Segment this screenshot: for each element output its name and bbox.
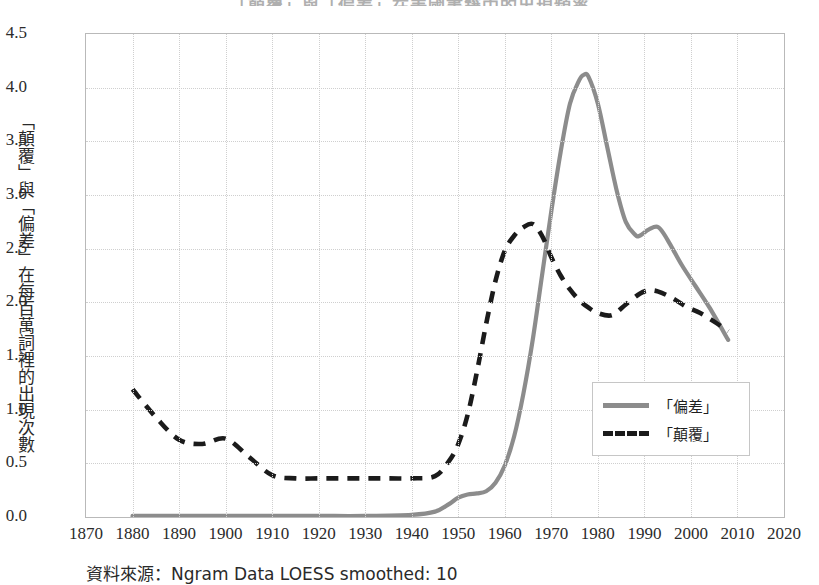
y-tick-label: 3.5 <box>0 130 27 150</box>
y-tick-label: 1.0 <box>0 399 27 419</box>
y-tick-label: 3.0 <box>0 184 27 204</box>
y-tick-label: 4.5 <box>0 23 27 43</box>
y-axis-title: 「顛覆」與「偏差」在每百萬詞裡的出現次數 <box>4 48 34 518</box>
source-caption: 資料來源：Ngram Data LOESS smoothed: 10 <box>86 560 458 585</box>
legend-item-subversion: 「顛覆」 <box>603 419 739 447</box>
chart-title: 「顛覆」與「偏差」在美國書籍中的出現頻率 <box>0 0 819 6</box>
y-tick-label: 4.0 <box>0 77 27 97</box>
legend-swatch-dashed-line <box>603 431 649 436</box>
y-tick-label: 0.0 <box>0 506 27 526</box>
y-tick-label: 1.5 <box>0 345 27 365</box>
legend-label-subversion: 「顛覆」 <box>658 423 718 444</box>
y-tick-label: 2.5 <box>0 238 27 258</box>
y-tick-label: 0.5 <box>0 452 27 472</box>
y-tick-label: 2.0 <box>0 291 27 311</box>
legend-item-bias: 「偏差」 <box>603 391 739 419</box>
legend-label-bias: 「偏差」 <box>658 395 718 416</box>
legend-swatch-solid-line <box>603 403 649 408</box>
chart-legend: 「偏差」 「顛覆」 <box>592 382 750 456</box>
x-tick-label: 2020 <box>754 524 814 544</box>
